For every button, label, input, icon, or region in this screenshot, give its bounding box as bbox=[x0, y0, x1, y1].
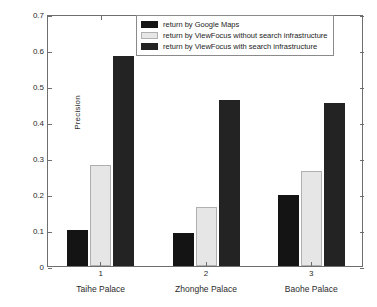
legend-item: return by ViewFocus without search infra… bbox=[141, 30, 328, 41]
y-tick-mark-right bbox=[360, 232, 364, 233]
y-tick-mark-right bbox=[360, 88, 364, 89]
y-tick-mark-right bbox=[360, 16, 364, 17]
x-tick-number: 3 bbox=[281, 269, 341, 278]
y-tick-mark-right bbox=[360, 268, 364, 269]
y-tick-mark-right bbox=[360, 196, 364, 197]
y-tick-label: 0.5 bbox=[33, 83, 44, 92]
y-axis-label: Precision bbox=[73, 53, 82, 173]
y-tick-label: 0.7 bbox=[33, 11, 44, 20]
x-category-label: Baohe Palace bbox=[251, 284, 371, 294]
x-category-label: Taihe Palace bbox=[41, 284, 161, 294]
bar bbox=[196, 207, 217, 266]
legend-label: return by Google Maps bbox=[163, 19, 239, 30]
x-tick-number: 2 bbox=[176, 269, 236, 278]
legend-item: return by ViewFocus with search infrastr… bbox=[141, 41, 328, 52]
legend-item: return by Google Maps bbox=[141, 19, 328, 30]
bar bbox=[90, 165, 111, 266]
y-tick-label: 0.1 bbox=[33, 227, 44, 236]
chart-legend: return by Google Mapsreturn by ViewFocus… bbox=[136, 15, 334, 56]
x-tick-mark bbox=[100, 262, 101, 266]
legend-color-swatch bbox=[141, 21, 158, 28]
y-tick-mark bbox=[48, 52, 52, 53]
bar bbox=[67, 230, 88, 266]
y-tick-label: 0.3 bbox=[33, 155, 44, 164]
y-tick-mark-right bbox=[360, 52, 364, 53]
bar bbox=[324, 103, 345, 266]
x-category-label: Zhonghe Palace bbox=[146, 284, 266, 294]
legend-color-swatch bbox=[141, 43, 158, 50]
bar bbox=[173, 233, 194, 266]
x-top-tick-mark bbox=[101, 16, 102, 20]
x-tick-mark bbox=[311, 262, 312, 266]
y-tick-label: 0.2 bbox=[33, 191, 44, 200]
x-tick-number: 1 bbox=[71, 269, 131, 278]
legend-label: return by ViewFocus without search infra… bbox=[163, 30, 328, 41]
y-tick-mark bbox=[48, 160, 52, 161]
y-tick-mark bbox=[48, 196, 52, 197]
legend-color-swatch bbox=[141, 32, 158, 39]
y-tick-mark bbox=[48, 16, 52, 17]
y-tick-mark bbox=[48, 88, 52, 89]
bar-chart-figure: Precision 00.10.20.30.40.50.60.71Taihe P… bbox=[0, 0, 377, 307]
y-tick-mark-right bbox=[360, 124, 364, 125]
bar bbox=[219, 100, 240, 266]
y-tick-mark bbox=[48, 124, 52, 125]
bar bbox=[278, 195, 299, 266]
bar bbox=[113, 56, 134, 266]
y-tick-label: 0.6 bbox=[33, 47, 44, 56]
y-tick-label: 0 bbox=[40, 263, 44, 272]
legend-label: return by ViewFocus with search infrastr… bbox=[163, 41, 317, 52]
y-tick-label: 0.4 bbox=[33, 119, 44, 128]
y-tick-mark bbox=[48, 232, 52, 233]
y-tick-mark bbox=[48, 268, 52, 269]
x-tick-mark bbox=[206, 262, 207, 266]
bar bbox=[301, 171, 322, 266]
y-tick-mark-right bbox=[360, 160, 364, 161]
